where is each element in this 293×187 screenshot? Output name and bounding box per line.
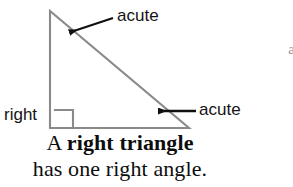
label-acute-right: acute <box>199 101 241 118</box>
caption-line-1: A right triangle <box>0 131 240 156</box>
caption-line-2: has one right angle. <box>0 157 240 182</box>
caption-term: right triangle <box>67 130 194 155</box>
label-acute-top: acute <box>117 7 159 24</box>
right-angle-marker-icon <box>55 110 73 128</box>
label-right-angle: right <box>4 106 37 123</box>
right-triangle-figure: acute acute right A right triangle has o… <box>0 0 293 187</box>
acute-top-arrow-icon <box>70 18 113 32</box>
figure-caption: A right triangle has one right angle. <box>0 131 240 181</box>
caption-prefix: A <box>46 130 66 155</box>
